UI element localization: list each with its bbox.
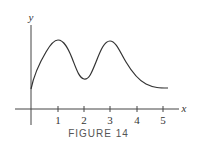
figure-caption: FIGURE 14 [0, 128, 197, 139]
chart: 1 2 3 4 5 y x [0, 0, 197, 145]
x-tick-label: 1 [55, 114, 61, 126]
x-tick-label: 5 [160, 114, 166, 126]
x-tick-label: 4 [134, 114, 140, 126]
x-axis-label: x [181, 102, 187, 114]
y-axis-label: y [28, 11, 34, 23]
x-tick-label: 3 [107, 114, 113, 126]
x-tick-label: 2 [81, 114, 87, 126]
function-curve [31, 40, 168, 89]
